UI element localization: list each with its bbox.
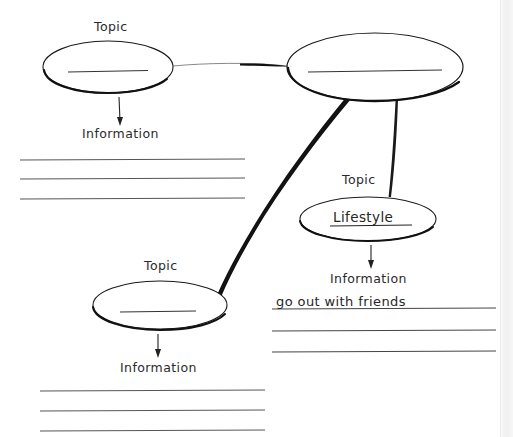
- writing-lines-bottom-left[interactable]: [40, 390, 265, 431]
- topic-label-lifestyle: Topic: [342, 172, 375, 187]
- lifestyle-ellipse-value[interactable]: Lifestyle: [333, 209, 393, 225]
- connector-center-to-lifestyle: [389, 100, 398, 197]
- answer-line-right-1[interactable]: go out with friends: [276, 294, 406, 309]
- writing-lines-right[interactable]: [272, 308, 496, 352]
- topic-label-top-left: Topic: [94, 19, 127, 34]
- topic-label-bottom-left: Topic: [144, 258, 177, 273]
- ellipse-topic-center[interactable]: [287, 33, 463, 101]
- arrow-lifestyle-to-information: [368, 245, 374, 269]
- connector-top-left-to-center: [173, 63, 289, 66]
- arrow-bottom-left-to-information: [155, 334, 161, 358]
- page-edge-divider: [500, 0, 501, 437]
- worksheet-canvas: Topic Information Topic Lifestyle Inform…: [0, 0, 513, 437]
- arrow-top-left-to-information: [117, 97, 123, 126]
- ellipse-topic-top-left[interactable]: [43, 41, 173, 93]
- mindmap-drawing: [0, 0, 513, 437]
- connector-center-to-bottom-left: [217, 96, 351, 297]
- writing-lines-upper-left[interactable]: [20, 159, 245, 199]
- ellipse-topic-bottom-left[interactable]: [93, 281, 227, 330]
- information-label-top-left: Information: [82, 126, 159, 141]
- information-label-bottom-left: Information: [120, 360, 197, 375]
- information-label-lifestyle: Information: [330, 271, 407, 286]
